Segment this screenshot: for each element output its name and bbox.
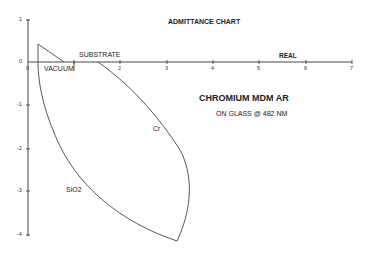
substrate-label: SUBSTRATE xyxy=(79,51,121,58)
cr-curve xyxy=(98,62,189,241)
x-tick-label: 6 xyxy=(304,66,307,72)
chart-title: ADMITTANCE CHART xyxy=(168,18,240,25)
sio2-curve xyxy=(38,44,177,241)
x-tick-label: 5 xyxy=(257,66,260,72)
vacuum-segment xyxy=(38,44,64,62)
x-tick-label: 3 xyxy=(165,66,168,72)
y-tick-label: 0 xyxy=(19,59,22,65)
y-tick-label: -1 xyxy=(17,102,22,108)
x-tick-label: 0 xyxy=(26,66,29,72)
vacuum-label: VACUUM xyxy=(44,65,74,72)
x-tick-label: 4 xyxy=(211,66,214,72)
y-tick-label: 1 xyxy=(19,17,22,23)
sio2-label: SiO2 xyxy=(66,186,82,193)
admittance-chart-plot xyxy=(0,0,370,254)
y-tick-label: -3 xyxy=(17,188,22,194)
x-axis-label: REAL xyxy=(279,53,297,60)
x-tick-label: 2 xyxy=(118,66,121,72)
chart-subtitle: CHROMIUM MDM AR xyxy=(199,94,289,103)
y-tick-label: -4 xyxy=(17,232,22,238)
cr-label: Cr xyxy=(153,125,160,132)
x-tick-label: 7 xyxy=(350,66,353,72)
chart-subtitle-2: ON GLASS @ 482 NM xyxy=(216,110,287,117)
y-tick-label: -2 xyxy=(17,146,22,152)
